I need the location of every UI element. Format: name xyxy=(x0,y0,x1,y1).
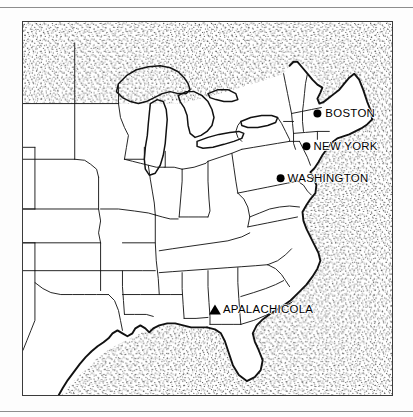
city-label-apalachicola: APALACHICOLA xyxy=(223,303,313,315)
city-marker-washington[interactable]: WASHINGTON xyxy=(277,172,369,184)
page-rule-bottom xyxy=(0,411,413,412)
city-label-boston: BOSTON xyxy=(325,107,375,119)
city-label-new-york: NEW YORK xyxy=(313,140,377,152)
city-marker-new-york[interactable]: NEW YORK xyxy=(302,140,377,152)
city-marker-apalachicola[interactable]: APALACHICOLA xyxy=(209,303,313,315)
map-frame: BOSTON NEW YORK WASHINGTON APALACHICOLA xyxy=(22,21,393,396)
city-label-washington: WASHINGTON xyxy=(288,172,369,184)
city-dot-washington xyxy=(277,174,285,182)
page-canvas: BOSTON NEW YORK WASHINGTON APALACHICOLA xyxy=(0,0,413,417)
city-dot-boston xyxy=(313,110,321,118)
city-dot-new-york xyxy=(302,142,310,150)
page-rule-top xyxy=(0,7,413,8)
map-figure: BOSTON NEW YORK WASHINGTON APALACHICOLA xyxy=(23,22,392,395)
